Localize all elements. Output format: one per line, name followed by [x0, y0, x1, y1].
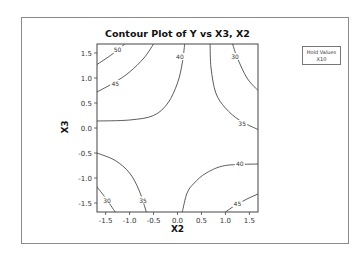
contour-line-40 — [182, 164, 258, 212]
y-tick-label: 1.5 — [81, 50, 92, 58]
contour-label: 30 — [231, 53, 239, 60]
y-tick-label: -1.5 — [78, 200, 92, 208]
contour-label: 40 — [236, 160, 244, 167]
contour-line-30 — [233, 44, 258, 91]
legend-title: Hold Values — [303, 49, 340, 56]
x-tick-label: -0.5 — [147, 217, 161, 225]
y-tick-label: 0.0 — [81, 125, 92, 133]
contour-plot: -1.5-1.0-0.50.00.51.01.51.51.00.50.0-0.5… — [0, 0, 363, 260]
y-tick-label: -0.5 — [78, 150, 92, 158]
contour-label: 45 — [234, 200, 242, 207]
x-tick-label: 1.5 — [244, 217, 255, 225]
y-tick-label: 1.0 — [81, 75, 92, 83]
contour-label: 35 — [139, 197, 147, 204]
contour-label: 40 — [176, 53, 184, 60]
x-tick-label: 1.0 — [220, 217, 231, 225]
contour-label: 45 — [111, 80, 119, 87]
x-tick-label: -1.5 — [99, 217, 113, 225]
y-tick-label: 0.5 — [81, 100, 92, 108]
contour-label: 35 — [238, 120, 246, 127]
y-tick-label: -1.0 — [78, 175, 92, 183]
plot-area: -1.5-1.0-0.50.00.51.01.51.51.00.50.0-0.5… — [78, 44, 258, 225]
x-tick-label: 0.0 — [172, 217, 183, 225]
legend-box: Hold Values X10 — [302, 46, 341, 65]
x-tick-label: -1.0 — [123, 217, 137, 225]
plot-box — [97, 44, 258, 212]
x-tick-label: 0.5 — [196, 217, 207, 225]
legend-entry: X10 — [303, 56, 340, 63]
contour-label: 50 — [114, 46, 122, 53]
contour-line-45 — [97, 44, 154, 92]
contour-label: 30 — [103, 197, 111, 204]
